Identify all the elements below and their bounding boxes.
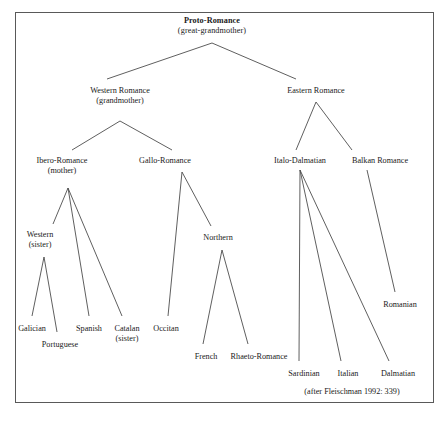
tree-node-sublabel-western-sister: (sister) [27, 240, 54, 250]
tree-node-eastern-romance: Eastern Romance [287, 86, 345, 96]
tree-node-rhaeto-romance: Rhaeto-Romance [231, 352, 288, 362]
tree-edge-balkan-romance-to-romanian [367, 170, 395, 292]
tree-node-romanian: Romanian [383, 300, 417, 310]
tree-node-label-northern: Northern [203, 233, 233, 242]
tree-node-label-rhaeto-romance: Rhaeto-Romance [231, 352, 288, 361]
tree-edge-ibero-romance-to-western-sister [53, 188, 68, 224]
tree-edges [0, 0, 446, 427]
tree-node-balkan-romance: Balkan Romance [352, 156, 408, 166]
tree-node-label-eastern-romance: Eastern Romance [287, 86, 345, 95]
tree-node-label-western-romance: Western Romance [90, 86, 150, 95]
figure-page: Proto-Romance(great-grandmother)Western … [0, 0, 446, 427]
tree-node-label-catalan: Catalan [114, 324, 139, 333]
tree-node-galician: Galician [18, 324, 46, 334]
tree-node-italian: Italian [338, 369, 359, 379]
tree-node-spanish: Spanish [76, 324, 102, 334]
tree-node-sublabel-western-romance: (grandmother) [90, 96, 150, 106]
tree-node-french: French [195, 352, 218, 362]
tree-node-catalan: Catalan(sister) [114, 324, 139, 343]
tree-node-western-sister: Western(sister) [27, 230, 54, 249]
tree-node-occitan: Occitan [153, 324, 178, 334]
tree-node-gallo-romance: Gallo-Romance [139, 156, 191, 166]
tree-edge-gallo-romance-to-occitan [168, 172, 182, 316]
tree-node-sublabel-catalan: (sister) [114, 334, 139, 344]
figure-credit: (after Fleischman 1992: 339) [304, 387, 399, 396]
tree-edge-proto-romance-to-western-romance [107, 43, 212, 79]
tree-node-label-italian: Italian [338, 369, 359, 378]
tree-edge-gallo-romance-to-northern [182, 172, 211, 226]
tree-edge-italo-dalmatian-to-italian [300, 170, 341, 361]
tree-node-label-dalmatian: Dalmatian [381, 369, 415, 378]
tree-node-label-romanian: Romanian [383, 300, 417, 309]
tree-node-sardinian: Sardinian [288, 369, 319, 379]
tree-edge-eastern-romance-to-italo-dalmatian [296, 102, 316, 150]
tree-edge-northern-to-rhaeto-romance [222, 250, 248, 344]
tree-edge-proto-romance-to-eastern-romance [212, 43, 296, 79]
tree-node-northern: Northern [203, 233, 233, 243]
tree-edge-ibero-romance-to-catalan [68, 188, 122, 316]
tree-node-label-proto-romance: Proto-Romance [184, 16, 240, 25]
tree-edge-western-romance-to-gallo-romance [120, 121, 172, 150]
tree-edge-eastern-romance-to-balkan-romance [316, 102, 352, 150]
tree-node-label-ibero-romance: Ibero-Romance [37, 156, 88, 165]
tree-node-label-balkan-romance: Balkan Romance [352, 156, 408, 165]
tree-edge-northern-to-french [203, 250, 222, 344]
tree-node-italo-dalmatian: Italo-Dalmatian [274, 156, 326, 166]
tree-node-ibero-romance: Ibero-Romance(mother) [37, 156, 88, 175]
tree-edge-italo-dalmatian-to-dalmatian [300, 170, 389, 361]
tree-node-sublabel-ibero-romance: (mother) [37, 166, 88, 176]
tree-edge-ibero-romance-to-spanish [68, 188, 89, 316]
tree-edge-western-sister-to-portuguese [44, 257, 57, 332]
tree-node-label-occitan: Occitan [153, 324, 178, 333]
tree-node-label-galician: Galician [18, 324, 46, 333]
tree-node-label-gallo-romance: Gallo-Romance [139, 156, 191, 165]
tree-node-dalmatian: Dalmatian [381, 369, 415, 379]
tree-node-proto-romance: Proto-Romance(great-grandmother) [178, 16, 246, 35]
tree-node-label-italo-dalmatian: Italo-Dalmatian [274, 156, 326, 165]
tree-node-label-spanish: Spanish [76, 324, 102, 333]
tree-node-label-portuguese: Portuguese [42, 340, 78, 349]
tree-node-label-sardinian: Sardinian [288, 369, 319, 378]
tree-node-label-western-sister: Western [27, 230, 54, 239]
tree-edge-western-sister-to-galician [32, 257, 44, 316]
tree-edge-italo-dalmatian-to-sardinian [299, 170, 300, 361]
tree-node-western-romance: Western Romance(grandmother) [90, 86, 150, 105]
tree-edge-western-romance-to-ibero-romance [72, 121, 120, 150]
tree-node-label-french: French [195, 352, 218, 361]
tree-node-sublabel-proto-romance: (great-grandmother) [178, 26, 246, 36]
tree-node-portuguese: Portuguese [42, 340, 78, 350]
